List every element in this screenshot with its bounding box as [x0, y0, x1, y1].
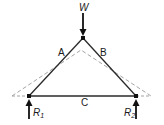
joint-right [134, 94, 138, 98]
member-c-label: C [81, 97, 88, 108]
load-arrow-icon [80, 13, 87, 36]
load-label: W [79, 2, 90, 13]
reaction-arrow-left-icon [26, 99, 33, 119]
member-b [83, 38, 136, 96]
reaction-right-label: R2 [124, 107, 135, 119]
joint-left [27, 94, 31, 98]
member-a-label: A [58, 47, 65, 58]
reaction-left-label: R1 [33, 107, 44, 119]
joint-apex [81, 36, 85, 40]
truss-diagram: W R1 R2 A B C [0, 0, 164, 125]
member-b-label: B [100, 47, 107, 58]
member-a [29, 38, 83, 96]
